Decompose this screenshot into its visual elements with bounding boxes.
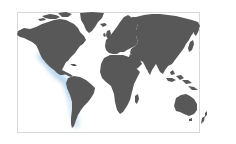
region-north-america[interactable] — [17, 19, 86, 75]
region-greenland[interactable] — [80, 12, 104, 33]
region-madagascar[interactable] — [135, 94, 139, 104]
region-central-america[interactable] — [62, 64, 77, 77]
region-canadian-arctic[interactable] — [38, 12, 72, 21]
region-japan[interactable] — [188, 40, 194, 52]
region-tasmania[interactable] — [189, 118, 192, 121]
region-southeast-asia[interactable] — [166, 70, 192, 84]
region-new-guinea[interactable] — [188, 86, 198, 90]
region-australia[interactable] — [174, 94, 197, 116]
region-new-zealand[interactable] — [201, 111, 207, 124]
region-british-isles[interactable] — [103, 30, 111, 38]
world-map[interactable] — [0, 0, 236, 144]
map-canvas: World map — [0, 0, 236, 144]
region-iceland[interactable] — [100, 23, 107, 27]
